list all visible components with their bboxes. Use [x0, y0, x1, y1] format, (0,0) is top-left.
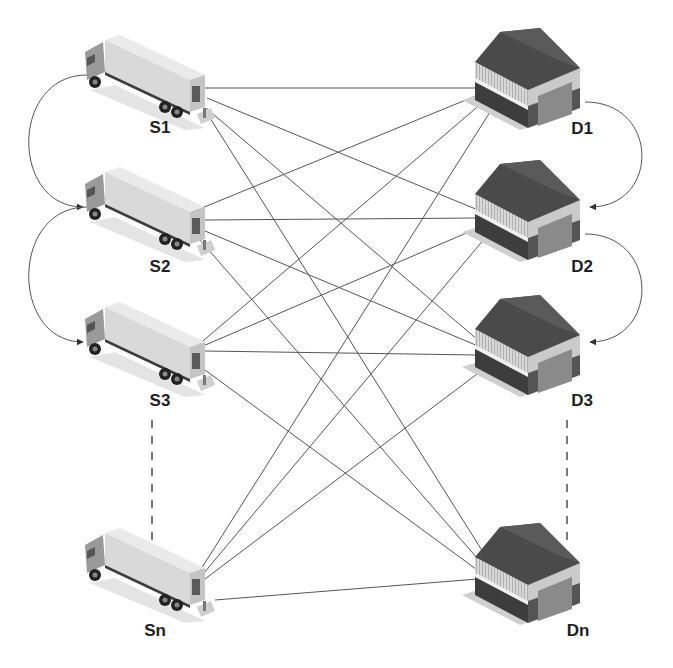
warehouse-icon	[462, 28, 580, 130]
route-s1-d2	[207, 98, 478, 210]
transport-network-diagram	[0, 0, 673, 668]
transfer-arrow-d1-d2	[585, 102, 642, 207]
route-s3-d3	[205, 351, 478, 355]
route-s2-d1	[192, 95, 478, 212]
label-d2: D2	[571, 257, 593, 277]
route-s3-d1	[190, 103, 482, 352]
label-s3: S3	[150, 391, 171, 411]
warehouse-icon	[462, 295, 580, 397]
route-s1-dn	[210, 118, 488, 560]
shipping-routes	[184, 88, 490, 600]
transfer-arrow-s2-s3	[29, 207, 87, 342]
route-s1-d3	[206, 108, 478, 340]
truck-icon	[85, 167, 215, 262]
label-s2: S2	[150, 257, 171, 277]
transfer-arrow-d2-d3	[585, 234, 642, 342]
route-sn-d1	[184, 112, 490, 596]
route-s2-d2	[205, 218, 478, 220]
label-d3: D3	[571, 391, 593, 411]
route-s3-d2	[196, 228, 478, 349]
label-sn: Sn	[144, 621, 166, 641]
route-sn-dn	[215, 579, 478, 600]
route-s3-dn	[205, 370, 480, 572]
truck-icon	[85, 302, 215, 397]
truck-icon	[85, 528, 215, 623]
route-s2-d3	[205, 231, 478, 346]
warehouse-icon	[462, 160, 580, 262]
label-d1: D1	[571, 119, 593, 139]
route-sn-d2	[188, 238, 485, 592]
warehouse-icon	[462, 523, 580, 625]
label-s1: S1	[150, 118, 171, 138]
route-sn-d3	[193, 368, 485, 588]
label-dn: Dn	[567, 621, 590, 641]
transfer-arrow-s1-s2	[29, 75, 87, 207]
truck-icon	[85, 35, 215, 130]
ellipsis-lines	[152, 420, 567, 545]
